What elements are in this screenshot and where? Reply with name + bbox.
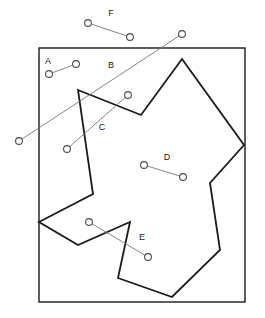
star-region-polygon — [39, 59, 244, 297]
segment-label-b: B — [108, 60, 114, 70]
segment-a[interactable]: A — [45, 56, 79, 77]
segment-line-d[interactable] — [144, 165, 183, 177]
endpoint-b-start[interactable] — [16, 138, 23, 145]
endpoint-c-start[interactable] — [64, 146, 71, 153]
endpoint-a-end[interactable] — [73, 61, 80, 68]
endpoint-e-start[interactable] — [86, 219, 93, 226]
figure-canvas: ABCDEF — [0, 0, 265, 318]
segment-label-c: C — [99, 122, 106, 132]
segment-d[interactable]: D — [141, 152, 187, 180]
endpoint-d-start[interactable] — [141, 162, 148, 169]
segment-e[interactable]: E — [86, 219, 152, 261]
endpoint-c-end[interactable] — [125, 92, 132, 99]
endpoint-e-end[interactable] — [145, 254, 152, 261]
endpoint-f-start[interactable] — [85, 20, 92, 27]
segment-f[interactable]: F — [85, 8, 134, 40]
bounding-rectangle — [39, 48, 245, 302]
endpoint-d-end[interactable] — [180, 174, 187, 181]
segment-c[interactable]: C — [64, 92, 132, 153]
endpoint-a-start[interactable] — [46, 71, 53, 78]
endpoint-f-end[interactable] — [127, 34, 134, 41]
segment-line-a[interactable] — [49, 64, 76, 74]
segment-label-e: E — [139, 232, 145, 242]
endpoint-b-end[interactable] — [179, 31, 186, 38]
segment-line-f[interactable] — [88, 23, 130, 37]
segment-label-f: F — [108, 8, 114, 18]
diagram-svg: ABCDEF — [0, 0, 265, 318]
segment-label-d: D — [164, 152, 171, 162]
segment-label-a: A — [45, 56, 51, 66]
